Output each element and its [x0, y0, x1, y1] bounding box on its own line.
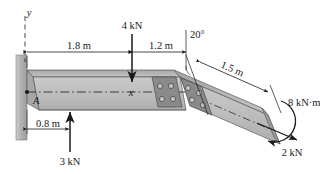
inclined-beam	[174, 70, 280, 144]
angle-20deg-label: 20°	[190, 29, 205, 40]
load-3kn-label: 3 kN	[60, 156, 81, 167]
wall-support	[16, 55, 27, 140]
dimension-1-8m	[27, 52, 132, 68]
dimension-1-8m-label: 1.8 m	[67, 40, 91, 51]
moment-8knm-label: 8 kN·m	[288, 97, 320, 108]
y-axis-label: y	[26, 7, 32, 18]
dimension-1-2m-label: 1.2 m	[149, 40, 173, 51]
x-axis-label: x	[128, 87, 134, 98]
load-4kn-label: 4 kN	[122, 20, 143, 31]
point-a-label: A	[32, 95, 40, 106]
engineering-figure: x y A	[0, 0, 320, 174]
load-2kn-label: 2 kN	[282, 147, 303, 158]
dimension-1-5m-label: 1.5 m	[219, 59, 245, 79]
dimension-0-8m-label: 0.8 m	[36, 118, 60, 129]
